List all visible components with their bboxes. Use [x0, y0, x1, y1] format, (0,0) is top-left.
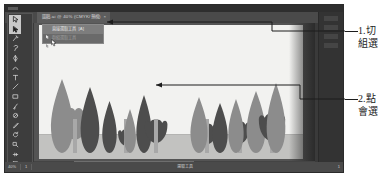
tool-direct-selection[interactable]: [9, 25, 21, 35]
dock-button-libraries[interactable]: [324, 34, 338, 39]
dock-button-swatches[interactable]: [324, 43, 338, 48]
annotation-2-line-1: 2.點: [358, 92, 378, 105]
document-tab[interactable]: 圖稿.ai @ 40% (CMYK/預視) ×: [37, 12, 110, 23]
dock-button-properties[interactable]: [324, 16, 338, 21]
leaf-2[interactable]: [79, 87, 101, 153]
flyout-label-direct-selection: 直接選取工具: [52, 27, 77, 31]
illustrator-window: 圖稿.ai @ 40% (CMYK/預視) ×: [5, 5, 343, 172]
tool-shaper[interactable]: [9, 111, 21, 121]
status-bar[interactable]: 40% 1 選取工具 1: [5, 162, 343, 172]
direct-selection-icon: [45, 26, 50, 32]
group-selection-icon: [45, 35, 50, 41]
tool-line-segment[interactable]: [9, 82, 21, 92]
tool-width[interactable]: [9, 149, 21, 159]
dock-button-layers[interactable]: [324, 25, 338, 30]
status-artboard-number[interactable]: 1: [25, 165, 27, 169]
status-page-field[interactable]: 1: [338, 165, 340, 169]
leaf-6[interactable]: [189, 97, 209, 153]
annotation-1-line-1: 1.切: [358, 24, 378, 37]
leaf-8[interactable]: [227, 99, 245, 153]
canvas-right-shadow: [289, 23, 315, 165]
tool-rectangle[interactable]: [9, 92, 21, 102]
status-tool-label: 選取工具: [177, 165, 193, 169]
tool-selection[interactable]: [9, 15, 21, 25]
document-tab-title: 圖稿.ai @ 40% (CMYK/預視): [42, 15, 101, 19]
tool-rotate[interactable]: [9, 130, 21, 140]
status-zoom-level[interactable]: 40%: [8, 165, 16, 169]
tool-scale[interactable]: [9, 140, 21, 150]
tool-magic-wand[interactable]: [9, 34, 21, 44]
right-dock-panel[interactable]: [318, 12, 343, 165]
tool-palette[interactable]: [7, 13, 33, 165]
tool-curvature[interactable]: [9, 63, 21, 73]
status-divider-2: [31, 164, 32, 170]
annotation-2-line-2: 會選: [358, 105, 378, 118]
window-controls[interactable]: [8, 7, 18, 10]
leaf-3[interactable]: [101, 101, 118, 153]
tool-lasso[interactable]: [9, 44, 21, 54]
flyout-shortcut-direct-selection: [A]: [79, 27, 84, 31]
tulip-bloom-3-stem: [154, 119, 158, 153]
leaf-1[interactable]: [49, 79, 75, 153]
annotation-1-line-2: 組選: [358, 37, 378, 50]
document-tab-strip: 圖稿.ai @ 40% (CMYK/預視) ×: [5, 12, 343, 23]
canvas-area[interactable]: [34, 23, 315, 165]
annotation-1: 1.切 組選: [358, 24, 378, 50]
artboard[interactable]: [39, 25, 303, 159]
annotation-2: 2.點 會選: [358, 92, 378, 118]
leaf-10[interactable]: [265, 83, 287, 153]
mouse-cursor-icon: [51, 33, 57, 51]
tool-pencil[interactable]: [9, 121, 21, 131]
figure-root: 圖稿.ai @ 40% (CMYK/預視) ×: [0, 0, 386, 179]
status-divider-1: [20, 164, 21, 170]
application-title-bar: [5, 5, 343, 12]
annotation-leader-1: [345, 31, 358, 32]
tool-pen[interactable]: [9, 53, 21, 63]
tool-type[interactable]: [9, 73, 21, 83]
close-icon[interactable]: ×: [104, 15, 107, 19]
tool-paintbrush[interactable]: [9, 101, 21, 111]
annotation-leader-2: [345, 99, 358, 100]
